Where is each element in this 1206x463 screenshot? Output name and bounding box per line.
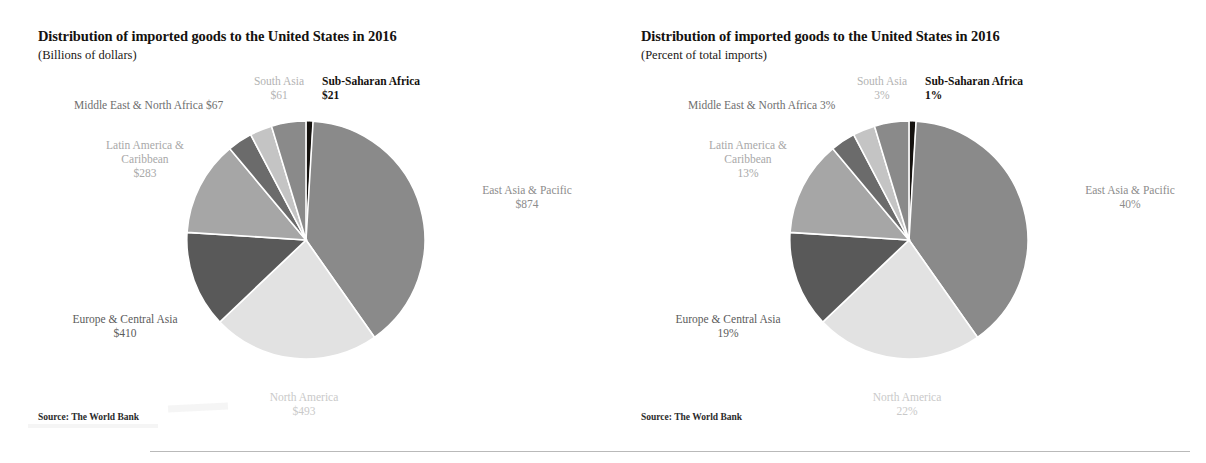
slice-label-south-asia: South Asia 3% [846,74,918,102]
slice-label-south-asia: South Asia $61 [241,74,317,102]
slice-label-name: South Asia [857,75,907,87]
slice-label-sub-saharan-africa: Sub-Saharan Africa $21 [322,74,420,102]
slice-label-value: 22% [842,404,972,418]
slice-label-name: East Asia & Pacific [1085,184,1175,196]
slice-label-name-2: Caribbean [89,152,201,166]
scan-artifact [168,402,228,412]
slice-label-latin-america-caribbean: Latin America & Caribbean $283 [89,138,201,180]
slice-label-name: Sub-Saharan Africa [925,75,1023,87]
slice-label-name: Middle East & North Africa [74,99,203,111]
slice-label-value: $874 [452,197,602,211]
slice-label-value: $21 [322,88,420,102]
slice-label-value: $410 [25,326,225,340]
slice-label-name: Middle East & North Africa [688,99,817,111]
slice-label-value: 13% [692,166,804,180]
chart-subtitle: (Billions of dollars) [38,48,137,63]
slice-label-name: Sub-Saharan Africa [322,75,420,87]
slice-label-east-asia-pacific: East Asia & Pacific $874 [452,183,602,211]
slice-label-value: $283 [89,166,201,180]
slice-label-value: 19% [628,326,828,340]
slice-label-name: Latin America & [709,139,787,151]
slice-label-name-2: Caribbean [692,152,804,166]
chart-panel-percent: Distribution of imported goods to the Un… [603,0,1206,463]
slice-label-name: South Asia [254,75,304,87]
slice-label-north-america: North America $493 [239,390,369,418]
slice-label-value: $61 [241,88,317,102]
slice-label-value: 3% [820,99,835,111]
slice-label-latin-america-caribbean: Latin America & Caribbean 13% [692,138,804,180]
slice-label-sub-saharan-africa: Sub-Saharan Africa 1% [925,74,1023,102]
slice-label-east-asia-pacific: East Asia & Pacific 40% [1055,183,1205,211]
slice-label-europe-central-asia: Europe & Central Asia 19% [628,312,828,340]
slice-label-name: North America [873,391,942,403]
slice-label-name: East Asia & Pacific [482,184,572,196]
page-title: Distribution of imported goods to the Un… [641,28,1000,45]
slice-label-middle-east-north-africa: Middle East & North Africa $67 [74,98,223,112]
chart-subtitle: (Percent of total imports) [641,48,767,63]
slice-label-value: $493 [239,404,369,418]
slice-label-value: $67 [206,99,223,111]
slice-label-name: Europe & Central Asia [72,313,177,325]
source-note: Source: The World Bank [38,412,139,422]
slice-label-value: 1% [925,88,1023,102]
scan-artifact [28,424,158,428]
page-divider [150,451,1190,452]
source-note: Source: The World Bank [641,412,742,422]
slice-label-middle-east-north-africa: Middle East & North Africa 3% [688,98,835,112]
slice-label-name: Europe & Central Asia [675,313,780,325]
slice-label-north-america: North America 22% [842,390,972,418]
slice-label-value: 40% [1055,197,1205,211]
slice-label-name: North America [270,391,339,403]
chart-panel-billions: Distribution of imported goods to the Un… [0,0,603,463]
slice-label-europe-central-asia: Europe & Central Asia $410 [25,312,225,340]
slice-label-name: Latin America & [106,139,184,151]
page-title: Distribution of imported goods to the Un… [38,28,397,45]
slice-label-value: 3% [846,88,918,102]
